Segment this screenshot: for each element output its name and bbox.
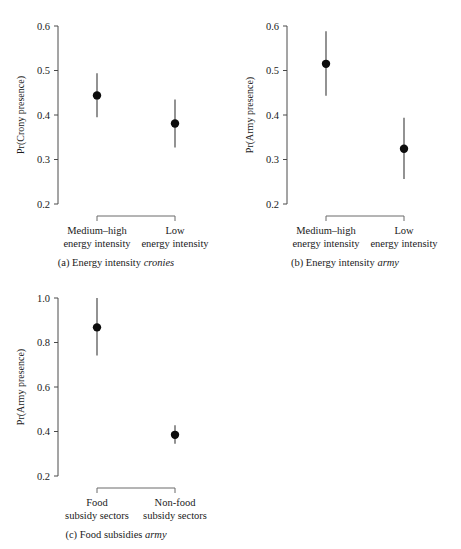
y-tick-label: 0.2 [37, 199, 50, 210]
page-text-fragment [0, 540, 461, 549]
x-category-label: energy intensity [141, 238, 209, 249]
caption-text: (a) Energy intensity [58, 257, 144, 269]
caption-emphasis: army [145, 529, 167, 540]
y-tick-label: 0.5 [37, 65, 50, 76]
x-category-label: energy intensity [63, 238, 131, 249]
data-point-marker [93, 91, 101, 99]
panel-caption: (a) Energy intensity cronies [58, 257, 174, 269]
y-tick-label: 0.6 [266, 21, 279, 32]
y-axis-title: Pr(Army presence) [15, 349, 27, 425]
chart-svg-b: 0.20.30.40.50.6Pr(Army presence)Medium–h… [229, 4, 461, 274]
y-axis-title: Pr(Army presence) [244, 77, 256, 153]
panel-caption: (b) Energy intensity army [291, 257, 399, 269]
y-tick-label: 0.8 [37, 337, 50, 348]
x-category-label: Non-food [155, 497, 197, 508]
y-tick-label: 0.5 [266, 65, 279, 76]
chart-panel-b: 0.20.30.40.50.6Pr(Army presence)Medium–h… [229, 4, 461, 274]
x-category-label: Low [165, 225, 185, 236]
x-category-label: Medium–high [296, 225, 356, 236]
x-category-label: energy intensity [292, 238, 360, 249]
x-axis-bracket [97, 216, 175, 221]
x-category-label: Food [86, 497, 108, 508]
chart-svg-a: 0.20.30.40.50.6Pr(Crony presence)Medium–… [0, 4, 232, 274]
chart-panel-c: 0.20.40.60.81.0Pr(Army presence)Foodsubs… [0, 276, 232, 544]
x-category-label: Medium–high [67, 225, 127, 236]
y-tick-label: 0.6 [37, 382, 50, 393]
y-tick-label: 0.4 [266, 110, 280, 121]
y-axis-title: Pr(Crony presence) [15, 76, 27, 154]
figure-sheet: 0.20.30.40.50.6Pr(Crony presence)Medium–… [0, 0, 461, 549]
x-category-label: subsidy sectors [143, 510, 207, 521]
x-category-label: energy intensity [370, 238, 438, 249]
y-tick-label: 0.3 [37, 154, 50, 165]
data-point-marker [400, 145, 408, 153]
caption-emphasis: cronies [144, 257, 175, 268]
y-tick-label: 0.2 [37, 471, 50, 482]
y-tick-label: 0.4 [37, 426, 51, 437]
data-point-marker [171, 431, 179, 439]
y-tick-label: 0.2 [266, 199, 279, 210]
y-tick-label: 0.6 [37, 21, 50, 32]
caption-emphasis: army [377, 257, 399, 268]
y-tick-label: 0.3 [266, 154, 279, 165]
y-tick-label: 1.0 [37, 293, 50, 304]
data-point-marker [171, 119, 179, 127]
chart-panel-a: 0.20.30.40.50.6Pr(Crony presence)Medium–… [0, 4, 232, 274]
caption-text: (b) Energy intensity [291, 257, 377, 269]
data-point-marker [93, 323, 101, 331]
x-axis-bracket [97, 488, 175, 493]
y-tick-label: 0.4 [37, 110, 51, 121]
data-point-marker [322, 60, 330, 68]
chart-svg-c: 0.20.40.60.81.0Pr(Army presence)Foodsubs… [0, 276, 232, 546]
x-category-label: subsidy sectors [65, 510, 129, 521]
x-axis-bracket [326, 216, 404, 221]
x-category-label: Low [394, 225, 414, 236]
